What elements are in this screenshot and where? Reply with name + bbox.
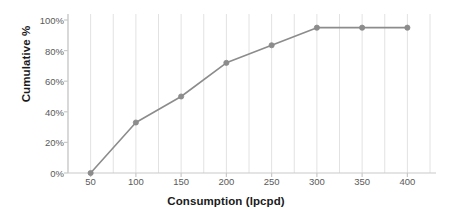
data-point-marker (224, 60, 229, 65)
cumulative-consumption-chart: Cumulative % 0%20%40%60%80%100% 50100150… (0, 0, 452, 218)
x-tick-label: 300 (297, 176, 337, 187)
axes-group (68, 14, 436, 173)
data-point-marker (405, 25, 410, 30)
data-point-marker (314, 25, 319, 30)
data-point-marker (269, 43, 274, 48)
x-tick-label: 350 (342, 176, 382, 187)
x-tick-label: 250 (252, 176, 292, 187)
data-point-marker (179, 94, 184, 99)
x-tick-label: 150 (161, 176, 201, 187)
x-tick-label: 100 (116, 176, 156, 187)
data-point-marker (88, 170, 93, 175)
data-point-marker (360, 25, 365, 30)
x-axis-title: Consumption (lpcpd) (0, 195, 452, 207)
x-tick-label: 200 (206, 176, 246, 187)
x-tick-label: 50 (71, 176, 111, 187)
gridlines-group (68, 14, 430, 173)
x-tick-label: 400 (387, 176, 427, 187)
data-point-marker (133, 120, 138, 125)
